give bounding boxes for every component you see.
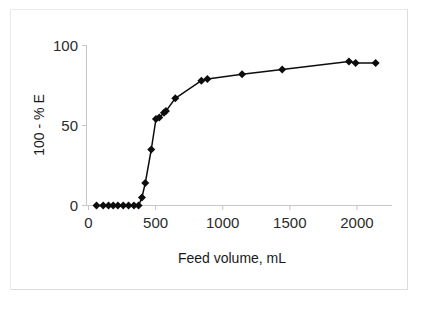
x-tick-label-0: 0	[84, 214, 92, 231]
y-tick-label-0: 0	[70, 197, 78, 214]
data-point	[147, 146, 155, 154]
data-point	[203, 75, 211, 83]
chart-figure: 100 50 0 0 500 1000 1500 2000 Feed volum…	[0, 0, 426, 312]
data-point	[352, 59, 360, 67]
y-tick-marks	[82, 46, 87, 206]
y-tick-label-100: 100	[53, 37, 78, 54]
y-tick-label-50: 50	[61, 117, 78, 134]
data-point	[278, 66, 286, 74]
data-point	[197, 77, 205, 85]
series-line	[97, 62, 376, 206]
data-point	[372, 59, 380, 67]
x-axis-title: Feed volume, mL	[178, 250, 286, 266]
series-markers	[93, 58, 380, 210]
data-point	[238, 70, 246, 78]
x-tick-label-500: 500	[143, 214, 168, 231]
data-point	[135, 202, 143, 210]
x-tick-label-1000: 1000	[206, 214, 239, 231]
data-point	[141, 179, 149, 187]
x-tick-label-1500: 1500	[273, 214, 306, 231]
y-axis-title: 100 - % E	[31, 94, 47, 155]
chart-plot-area: 100 50 0 0 500 1000 1500 2000 Feed volum…	[0, 0, 426, 312]
data-point	[345, 58, 353, 66]
data-point	[138, 194, 146, 202]
x-tick-label-2000: 2000	[340, 214, 373, 231]
